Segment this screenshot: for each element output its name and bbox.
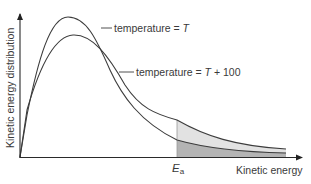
label-temperature-t: temperature = T xyxy=(114,22,191,34)
curve-temperature-t xyxy=(20,17,286,157)
x-axis-label: Kinetic energy xyxy=(236,164,303,176)
label-temperature-t-plus-100: temperature = T + 100 xyxy=(136,66,241,78)
y-axis-label: Kinetic energy distribution xyxy=(4,28,16,148)
ea-label: Ea xyxy=(172,162,185,176)
curve-temperature-t-plus-100 xyxy=(20,35,286,157)
chart-canvas: temperature = T temperature = T + 100 Ea… xyxy=(0,0,311,184)
